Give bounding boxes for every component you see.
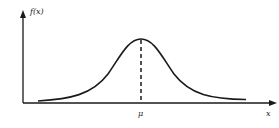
y-axis-arrow-icon [20, 10, 26, 18]
x-axis-arrow-icon [269, 100, 277, 106]
mean-label: μ [138, 110, 143, 118]
bell-curve [38, 39, 246, 101]
x-axis-label: x [266, 110, 271, 118]
y-axis-label: f(x) [30, 8, 44, 16]
